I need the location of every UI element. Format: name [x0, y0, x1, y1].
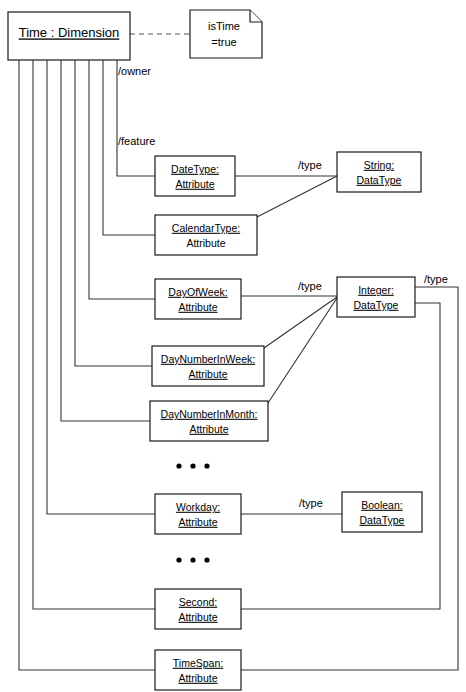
- ellipsis-group-upper: [176, 463, 209, 468]
- uml-diagram-canvas: Time : Dimension isTime =true /owner /fe…: [0, 0, 466, 692]
- attribute-datetype-kind: Attribute: [175, 178, 214, 190]
- attribute-dayofweek-name: DayOfWeek:: [168, 286, 227, 298]
- ellipsis-dot: [190, 463, 195, 468]
- attribute-daynumberinmonth-name: DayNumberInMonth:: [161, 408, 258, 420]
- edge-label-type-integer: /type: [298, 280, 322, 292]
- attribute-second-name: Second:: [179, 596, 218, 608]
- node-attribute-calendartype[interactable]: CalendarType: Attribute: [155, 215, 257, 255]
- note-line-1: isTime: [208, 20, 240, 32]
- edge-time-to-calendartype: [103, 60, 155, 235]
- edge-time-to-daynumberinmonth: [61, 60, 150, 421]
- node-attribute-second[interactable]: Second: Attribute: [155, 589, 241, 629]
- edge-label-owner: /owner: [118, 65, 151, 77]
- edge-integer-to-second: [241, 303, 440, 609]
- attribute-workday-name: Workday:: [176, 501, 220, 513]
- edge-daynumberinmonth-to-integer: [268, 298, 337, 403]
- node-attribute-daynumberinweek[interactable]: DayNumberInWeek: Attribute: [152, 346, 264, 386]
- attribute-timespan-name: TimeSpan:: [173, 657, 223, 669]
- node-attribute-workday[interactable]: Workday: Attribute: [155, 494, 241, 534]
- attribute-calendartype-name: CalendarType:: [172, 222, 240, 234]
- datatype-boolean-kind: DataType: [360, 514, 405, 526]
- edge-time-to-workday: [47, 60, 155, 514]
- node-attribute-daynumberinmonth[interactable]: DayNumberInMonth: Attribute: [150, 401, 268, 441]
- ellipsis-group-lower: [176, 557, 209, 562]
- attribute-dayofweek-kind: Attribute: [178, 301, 217, 313]
- node-attribute-dayofweek[interactable]: DayOfWeek: Attribute: [155, 279, 241, 319]
- edge-label-type-integer-right: /type: [424, 273, 448, 285]
- ellipsis-dot: [204, 463, 209, 468]
- ellipsis-dot: [176, 463, 181, 468]
- attribute-datetype-name: DateType:: [171, 163, 219, 175]
- edge-daynumberinweek-to-integer: [264, 297, 337, 348]
- datatype-integer-name: Integer:: [358, 284, 394, 296]
- node-time-dimension[interactable]: Time : Dimension: [8, 12, 130, 60]
- attribute-calendartype-kind: Attribute: [186, 237, 225, 249]
- node-attribute-datetype[interactable]: DateType: Attribute: [155, 156, 235, 196]
- attribute-second-kind: Attribute: [178, 611, 217, 623]
- attribute-daynumberinmonth-kind: Attribute: [189, 423, 228, 435]
- ellipsis-dot: [176, 557, 181, 562]
- datatype-boolean-name: Boolean:: [361, 499, 402, 511]
- node-datatype-string[interactable]: String: DataType: [337, 152, 421, 192]
- time-dimension-label: Time : Dimension: [19, 25, 120, 40]
- note-line-2: =true: [211, 36, 236, 48]
- edge-calendartype-to-string: [257, 176, 337, 217]
- edge-integer-to-timespan: [241, 287, 458, 670]
- edge-time-to-timespan: [19, 60, 155, 670]
- attribute-daynumberinweek-kind: Attribute: [188, 368, 227, 380]
- attribute-daynumberinweek-name: DayNumberInWeek:: [161, 353, 255, 365]
- edge-time-to-datetype: [117, 60, 155, 176]
- node-attribute-timespan[interactable]: TimeSpan: Attribute: [155, 650, 241, 690]
- edge-time-to-dayofweek: [89, 60, 155, 299]
- attribute-workday-kind: Attribute: [178, 516, 217, 528]
- ellipsis-dot: [204, 557, 209, 562]
- uml-svg-canvas: Time : Dimension isTime =true /owner /fe…: [0, 0, 466, 692]
- attribute-timespan-kind: Attribute: [178, 672, 217, 684]
- datatype-string-name: String:: [364, 159, 394, 171]
- datatype-string-kind: DataType: [357, 174, 402, 186]
- node-datatype-boolean[interactable]: Boolean: DataType: [342, 492, 422, 532]
- ellipsis-dot: [190, 557, 195, 562]
- edge-label-type-string: /type: [298, 159, 322, 171]
- note-istime-true: isTime =true: [190, 10, 262, 58]
- edge-time-to-daynumberinweek: [75, 60, 152, 366]
- datatype-integer-kind: DataType: [354, 299, 399, 311]
- edge-label-type-boolean: /type: [299, 497, 323, 509]
- edge-label-feature: /feature: [118, 135, 155, 147]
- node-datatype-integer[interactable]: Integer: DataType: [337, 277, 415, 317]
